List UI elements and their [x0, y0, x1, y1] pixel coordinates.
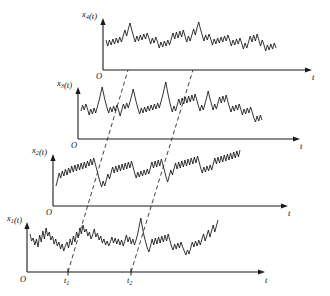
- panel-x4-y-axis-label: x4(t): [81, 9, 97, 21]
- panel-x4-t-axis-label: t: [312, 72, 315, 82]
- panel-x4-y-axis-arrow-icon: [100, 18, 105, 25]
- panel-x4-t-axis-arrow-icon: [305, 67, 312, 72]
- panel-x1-t-axis-label: t: [265, 275, 268, 285]
- signal-trace-x2t: [56, 150, 240, 187]
- panel-x2-axes: [50, 154, 288, 209]
- panel-x3-t-axis-arrow-icon: [293, 136, 300, 141]
- panel-x2-y-axis-arrow-icon: [50, 154, 55, 161]
- panel-x2-t-axis-label: t: [288, 208, 291, 218]
- panel-x1-origin-label: O: [20, 275, 26, 284]
- panel-x3-y-axis-label: x3(t): [56, 78, 72, 90]
- figure-canvas: x4(t)Otx3(t)Otx2(t)Otx1(t)Ott1t2: [0, 0, 330, 296]
- panel-x1-y-axis-label: x1(t): [6, 213, 22, 225]
- signal-trace-x4t: [106, 22, 276, 51]
- panel-x4-axes: [100, 18, 312, 73]
- signal-trace-x1t: [30, 218, 218, 255]
- panel-x2-y-axis-label: x2(t): [31, 145, 47, 157]
- panel-x3-y-axis-arrow-icon: [75, 87, 80, 94]
- labels-layer: x4(t)Otx3(t)Otx2(t)Otx1(t)Ott1t2: [6, 9, 315, 286]
- dashed-link-marker-t2: [131, 70, 193, 272]
- panel-x2-origin-label: O: [46, 208, 52, 217]
- panel-x3-t-axis-label: t: [300, 141, 303, 151]
- axes-layer: [24, 18, 312, 275]
- signal-trace-x3t: [81, 82, 262, 122]
- panel-x1-t-axis-arrow-icon: [258, 269, 265, 274]
- panel-x2-t-axis-arrow-icon: [281, 203, 288, 208]
- marker-t2-label: t2: [127, 276, 132, 286]
- panel-x3-origin-label: O: [71, 141, 77, 150]
- panel-x4-origin-label: O: [96, 72, 102, 81]
- panel-x1-y-axis-arrow-icon: [24, 222, 29, 229]
- marker-t1-label: t1: [64, 276, 69, 286]
- random-process-ensemble-figure: x4(t)Otx3(t)Otx2(t)Otx1(t)Ott1t2: [0, 0, 330, 296]
